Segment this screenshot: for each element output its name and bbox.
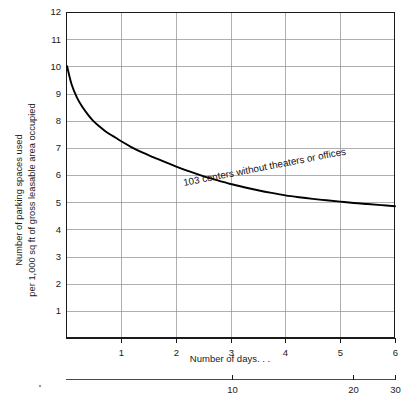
y-tick-label: 8 (56, 115, 61, 126)
y-axis-tick-labels: 123456789101112 (50, 6, 61, 316)
secondary-tick-label: 10 (227, 384, 238, 395)
x-tick-label: 4 (283, 347, 288, 358)
y-tick-label: 1 (56, 305, 61, 316)
y-axis-title-line2: per 1,000 sq ft of gross leasable area o… (27, 103, 37, 296)
parking-demand-chart: 123456789101112 123456 103 centers witho… (0, 0, 411, 407)
y-tick-label: 2 (56, 278, 61, 289)
x-tick-label: 1 (119, 347, 124, 358)
x-tick-label: 6 (393, 347, 398, 358)
secondary-tick-label: 20 (348, 384, 359, 395)
x-axis-ticks (122, 338, 396, 343)
x-tick-label: 5 (338, 347, 343, 358)
y-tick-label: 7 (56, 142, 61, 153)
print-speck (39, 385, 41, 387)
secondary-axis-tick-labels: 102030 (227, 384, 401, 395)
y-axis-title-line1: Number of parking spaces used (14, 134, 24, 265)
secondary-tick-label: 30 (390, 384, 401, 395)
y-tick-label: 11 (51, 34, 61, 45)
y-tick-label: 10 (50, 61, 61, 72)
chart-container: 123456789101112 123456 103 centers witho… (0, 0, 411, 407)
y-tick-label: 5 (56, 197, 61, 208)
x-axis-title: Number of days. . . (190, 353, 270, 364)
y-tick-label: 9 (56, 88, 61, 99)
y-tick-label: 4 (56, 224, 61, 235)
x-tick-label: 2 (174, 347, 179, 358)
y-tick-label: 12 (50, 6, 61, 17)
y-tick-label: 3 (56, 251, 61, 262)
y-tick-label: 6 (56, 169, 61, 180)
